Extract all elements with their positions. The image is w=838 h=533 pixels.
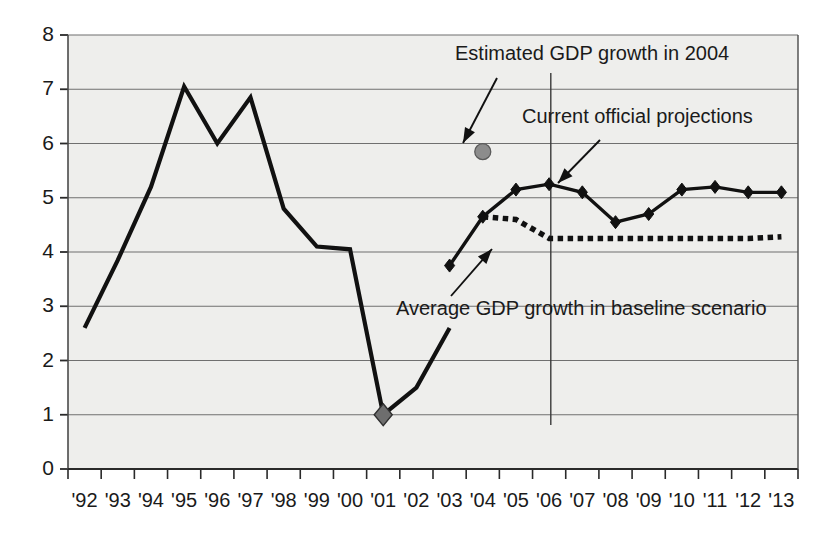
annotation-estimated-2004: Estimated GDP growth in 2004 [455, 42, 729, 65]
x-tick-label: '13 [758, 489, 804, 512]
gdp-growth-chart: 876543210 '92'93'94'95'96'97'98'99'00'01… [0, 0, 838, 533]
series-baseline-average [483, 217, 782, 239]
y-tick-label: 1 [14, 402, 54, 426]
y-tick-label: 2 [14, 348, 54, 372]
series-historical-gdp [85, 87, 450, 415]
y-tick-label: 7 [14, 76, 54, 100]
special-data-points [374, 144, 491, 426]
y-tick-label: 3 [14, 293, 54, 317]
chart-canvas [0, 0, 838, 533]
y-tick-label: 4 [14, 239, 54, 263]
y-axis-ticks [60, 35, 68, 469]
y-tick-label: 6 [14, 131, 54, 155]
x-axis-ticks [68, 469, 798, 479]
series-official-projection [445, 178, 787, 272]
annotation-current-projections: Current official projections [522, 105, 753, 128]
annotation-baseline-average: Average GDP growth in baseline scenario [396, 297, 767, 320]
y-tick-label: 0 [14, 456, 54, 480]
y-tick-label: 8 [14, 22, 54, 46]
y-tick-label: 5 [14, 185, 54, 209]
